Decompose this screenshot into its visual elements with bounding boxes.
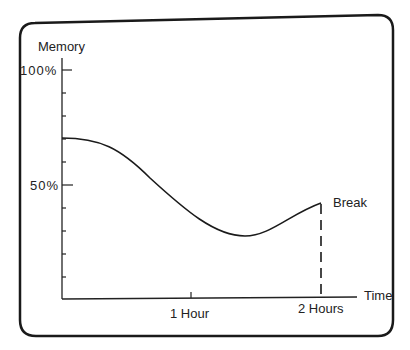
chart-frame (20, 15, 393, 336)
x-axis-label: Time (364, 288, 392, 303)
y-ticks (62, 70, 73, 277)
break-annotation: Break (333, 195, 367, 210)
y-tick-100-label: 100% (20, 63, 57, 78)
x-axis (62, 297, 357, 299)
memory-chart: Memory 100% 50% 1 Hour 2 Hours Time Brea… (0, 0, 410, 350)
y-axis-label: Memory (38, 39, 85, 54)
memory-curve (62, 138, 321, 236)
x-tick-1-label: 1 Hour (170, 306, 210, 321)
x-tick-2-label: 2 Hours (298, 301, 344, 316)
y-tick-50-label: 50% (30, 178, 59, 193)
